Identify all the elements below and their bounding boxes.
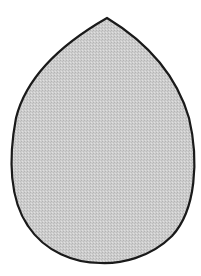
teardrop-shape: [12, 18, 195, 263]
teardrop-figure: [0, 0, 201, 276]
